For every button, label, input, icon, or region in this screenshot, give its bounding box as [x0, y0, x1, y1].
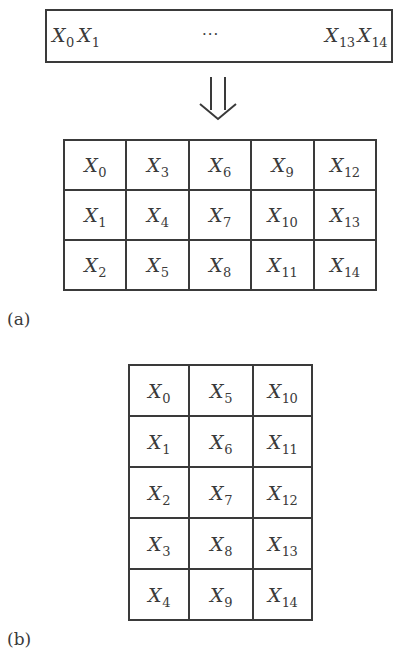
- matrix-cell-value: X14: [268, 584, 298, 606]
- matrix-cell-value: X3: [148, 533, 170, 555]
- matrix-row: X3X8X13: [129, 518, 312, 569]
- matrix-row: X1X4X7X10X13: [64, 190, 376, 240]
- matrix-5x3: X0X5X10X1X6X11X2X7X12X3X8X13X4X9X14: [128, 364, 313, 621]
- matrix-cell: X8: [189, 518, 253, 569]
- matrix-cell: X13: [253, 518, 312, 569]
- matrix-cell: X0: [64, 140, 126, 190]
- matrix-cell: X13: [314, 190, 376, 240]
- matrix-cell-value: X11: [268, 431, 298, 453]
- matrix-cell: X14: [253, 569, 312, 620]
- matrix-cell-value: X0: [84, 154, 106, 176]
- matrix-cell: X12: [314, 140, 376, 190]
- matrix-cell-value: X6: [210, 431, 232, 453]
- matrix-cell: X4: [129, 569, 189, 620]
- matrix-cell: X7: [189, 190, 251, 240]
- matrix-cell: X1: [129, 416, 189, 467]
- matrix-cell-value: X1: [148, 431, 170, 453]
- matrix-cell-value: X4: [147, 204, 169, 226]
- matrix-row: X1X6X11: [129, 416, 312, 467]
- sequence-ellipsis: ···: [202, 25, 219, 43]
- matrix-cell-value: X2: [84, 254, 106, 276]
- sequence-item: X13: [325, 24, 355, 46]
- matrix-cell: X5: [189, 365, 253, 416]
- matrix-cell: X8: [189, 240, 251, 290]
- sequence-item: X1: [78, 24, 100, 46]
- matrix-cell: X9: [189, 569, 253, 620]
- matrix-cell-value: X8: [209, 254, 231, 276]
- matrix-cell-value: X12: [330, 154, 360, 176]
- matrix-cell-value: X11: [268, 254, 298, 276]
- matrix-cell-value: X10: [268, 204, 298, 226]
- sequence-item: X0: [52, 24, 74, 46]
- matrix-cell-value: X0: [148, 380, 170, 402]
- matrix-cell-value: X9: [271, 154, 293, 176]
- matrix-row: X0X3X6X9X12: [64, 140, 376, 190]
- matrix-cell: X11: [253, 416, 312, 467]
- figure-label-b: (b): [7, 629, 31, 649]
- matrix-cell-value: X10: [268, 380, 298, 402]
- matrix-cell: X10: [253, 365, 312, 416]
- matrix-cell: X0: [129, 365, 189, 416]
- matrix-cell: X9: [251, 140, 313, 190]
- matrix-cell: X1: [64, 190, 126, 240]
- matrix-row: X4X9X14: [129, 569, 312, 620]
- matrix-cell: X3: [126, 140, 188, 190]
- matrix-cell: X6: [189, 416, 253, 467]
- matrix-cell-value: X12: [268, 482, 298, 504]
- matrix-cell-value: X7: [209, 204, 231, 226]
- matrix-cell-value: X8: [210, 533, 232, 555]
- matrix-cell-value: X14: [330, 254, 360, 276]
- matrix-3x5: X0X3X6X9X12X1X4X7X10X13X2X5X8X11X14: [63, 139, 377, 291]
- matrix-cell-value: X5: [210, 380, 232, 402]
- matrix-cell: X2: [129, 467, 189, 518]
- matrix-cell-value: X2: [148, 482, 170, 504]
- sequence-start: X0X1: [52, 24, 100, 46]
- matrix-cell: X7: [189, 467, 253, 518]
- matrix-cell: X14: [314, 240, 376, 290]
- sequence-item: X14: [357, 24, 387, 46]
- sequence-end: X13X14: [325, 24, 387, 46]
- matrix-cell-value: X5: [147, 254, 169, 276]
- matrix-cell: X2: [64, 240, 126, 290]
- matrix-cell-value: X13: [268, 533, 298, 555]
- matrix-cell: X10: [251, 190, 313, 240]
- matrix-cell: X4: [126, 190, 188, 240]
- matrix-cell-value: X7: [210, 482, 232, 504]
- matrix-cell-value: X6: [209, 154, 231, 176]
- matrix-cell-value: X13: [330, 204, 360, 226]
- matrix-cell: X6: [189, 140, 251, 190]
- sequence-box: X0X1 ··· X13X14: [45, 9, 393, 63]
- matrix-row: X2X5X8X11X14: [64, 240, 376, 290]
- matrix-cell-value: X3: [147, 154, 169, 176]
- matrix-cell-value: X1: [84, 204, 106, 226]
- matrix-cell: X3: [129, 518, 189, 569]
- figure-label-a: (a): [7, 309, 30, 329]
- matrix-cell: X5: [126, 240, 188, 290]
- double-down-arrow-icon: [196, 74, 242, 122]
- matrix-row: X2X7X12: [129, 467, 312, 518]
- matrix-cell: X11: [251, 240, 313, 290]
- matrix-cell-value: X9: [210, 584, 232, 606]
- matrix-cell: X12: [253, 467, 312, 518]
- matrix-row: X0X5X10: [129, 365, 312, 416]
- matrix-cell-value: X4: [148, 584, 170, 606]
